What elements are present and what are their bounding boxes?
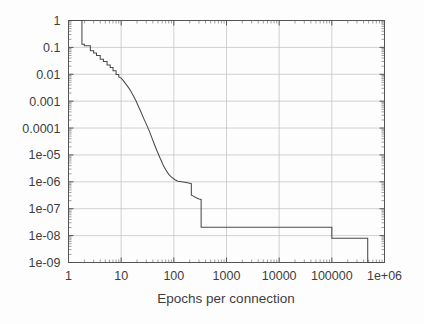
y-tick-label: 1e-09 — [29, 256, 61, 270]
y-tick-label: 1e-07 — [29, 202, 61, 216]
x-axis-title: Epochs per connection — [157, 291, 294, 306]
y-tick-label: 0.0001 — [22, 122, 60, 136]
x-tick-label: 1000 — [213, 269, 241, 283]
y-tick-label: 0.01 — [36, 68, 60, 82]
x-tick-label: 1 — [65, 269, 72, 283]
y-tick-label: 1e-08 — [29, 229, 61, 243]
x-axis-tick-labels: 1101001000100001000001e+06 — [65, 269, 402, 283]
x-tick-label: 100000 — [311, 269, 353, 283]
chart-figure: 10.10.010.0010.00011e-051e-061e-071e-081… — [0, 0, 424, 324]
y-tick-label: 0.1 — [43, 41, 60, 55]
y-tick-label: 1e-06 — [29, 175, 61, 189]
x-tick-label: 1e+06 — [367, 269, 402, 283]
y-tick-label: 1e-05 — [29, 148, 61, 162]
y-tick-label: 1 — [54, 14, 61, 28]
y-tick-label: 0.001 — [29, 95, 60, 109]
chart-plot-area: 10.10.010.0010.00011e-051e-061e-071e-081… — [0, 0, 424, 324]
x-tick-label: 10000 — [262, 269, 297, 283]
x-tick-label: 100 — [163, 269, 184, 283]
x-tick-label: 10 — [114, 269, 128, 283]
